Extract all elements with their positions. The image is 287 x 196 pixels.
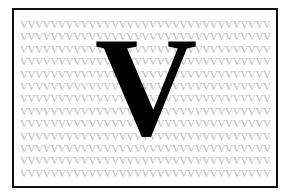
big-letter-v: V [92, 32, 200, 142]
pattern-row: VVVVVVVVVVVVVVVVVVVVVVVVVVVVVVVVV [20, 167, 272, 179]
figure-frame: VVVVVVVVVVVVVVVVVVVVVVVVVVVVVVVVV VVVVVV… [12, 8, 278, 188]
